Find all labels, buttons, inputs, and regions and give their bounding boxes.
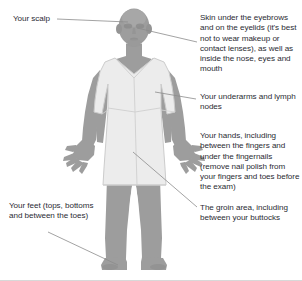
callout-underarms: Your underarms and lymph nodes xyxy=(200,92,298,113)
callout-hands: Your hands, including between the finger… xyxy=(200,131,300,193)
left-toes-shadow xyxy=(102,264,118,270)
left-eye-shadow xyxy=(124,23,132,28)
jaw-shadow xyxy=(126,39,142,47)
callout-eyebrows: Skin under the eyebrows and on the eyeli… xyxy=(200,13,300,75)
right-ear xyxy=(146,24,152,34)
callout-scalp: Your scalp xyxy=(13,14,83,24)
left-ear xyxy=(116,24,122,34)
left-hand xyxy=(63,140,95,174)
skin-exam-diagram: Your scalp Skin under the eyebrows and o… xyxy=(0,0,302,281)
callout-feet: Your feet (tops, bottoms and between the… xyxy=(9,201,99,222)
right-toes-shadow xyxy=(150,264,166,270)
callout-groin: The groin area, including between your b… xyxy=(200,203,295,224)
